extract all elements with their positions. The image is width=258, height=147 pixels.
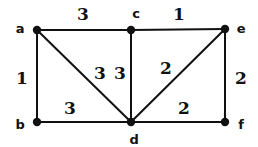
node-label-d: d <box>129 133 138 146</box>
node-label-a: a <box>16 22 25 35</box>
weighted-graph-diagram: 311332232acebdf <box>0 0 258 147</box>
edge-weight-c-d: 3 <box>114 65 126 82</box>
node-label-e: e <box>237 22 246 35</box>
edge-weight-d-f: 2 <box>178 100 190 117</box>
edge-weight-a-d: 3 <box>94 65 106 82</box>
edge-weight-a-b: 1 <box>16 70 28 87</box>
graph-node-d <box>127 118 135 126</box>
node-label-f: f <box>238 118 243 131</box>
edge-weight-e-f: 2 <box>235 70 247 87</box>
node-label-b: b <box>15 118 24 131</box>
graph-node-c <box>127 26 135 34</box>
edge-weight-b-d: 3 <box>64 100 76 117</box>
node-label-c: c <box>132 7 140 20</box>
edge-weight-a-c: 3 <box>77 6 89 23</box>
edge-weight-c-e: 1 <box>173 6 185 23</box>
graph-node-f <box>221 118 229 126</box>
graph-node-a <box>33 26 41 34</box>
graph-canvas <box>0 0 258 147</box>
graph-node-e <box>221 25 229 33</box>
graph-node-b <box>33 118 41 126</box>
graph-edge-c-e <box>131 29 225 30</box>
edge-weight-d-e: 2 <box>160 60 172 77</box>
